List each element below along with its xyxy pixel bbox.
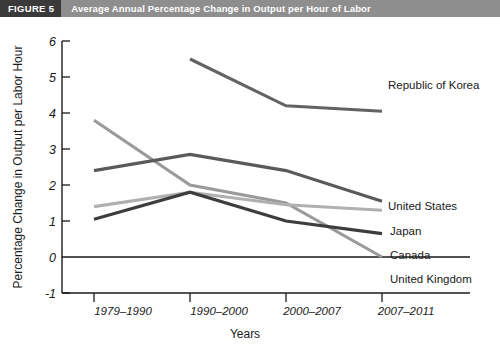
x-tick-label-2: 1990–2000 — [190, 305, 248, 317]
y-axis-title: Percentage Change in Output per Labor Ho… — [11, 46, 25, 289]
x-tick-label-3: 2000–2007 — [282, 305, 341, 317]
figure-number-badge: FIGURE 5 — [0, 0, 61, 17]
series-label-republic-of-korea: Republic of Korea — [388, 79, 480, 91]
y-tick-label-5: 5 — [49, 71, 56, 85]
figure-title: Average Annual Percentage Change in Outp… — [71, 3, 371, 14]
x-tick-label-4: 2007–2011 — [377, 305, 435, 317]
y-tick-label-0: 0 — [49, 251, 56, 265]
series-label-united-kingdom: United Kingdom — [390, 273, 472, 285]
series-label-japan: Japan — [390, 225, 421, 237]
series-line-republic-of-korea[interactable] — [190, 59, 382, 111]
x-axis-title: Years — [230, 327, 260, 341]
line-chart: 6 5 4 3 2 1 0 -1 Percentage Change in Ou… — [0, 17, 500, 346]
x-tick-label-1: 1979–1990 — [94, 305, 152, 317]
y-tick-label-minus-1: -1 — [45, 287, 56, 301]
series-label-united-states: United States — [388, 200, 457, 212]
series-label-canada: Canada — [390, 249, 431, 261]
y-tick-label-1: 1 — [49, 215, 56, 229]
y-tick-label-3: 3 — [49, 143, 56, 157]
chart-canvas: 6 5 4 3 2 1 0 -1 Percentage Change in Ou… — [0, 17, 500, 346]
y-tick-label-4: 4 — [49, 107, 56, 121]
y-tick-label-6: 6 — [49, 35, 56, 49]
y-tick-label-2: 2 — [48, 179, 56, 193]
figure-header: FIGURE 5 Average Annual Percentage Chang… — [0, 0, 500, 17]
